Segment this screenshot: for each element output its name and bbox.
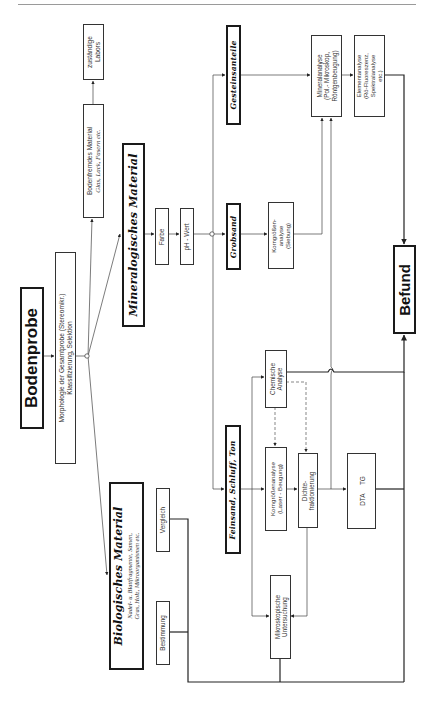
mineral-material-box: Mineralogisches Material: [122, 143, 145, 327]
labs-line-1: zuständige: [86, 36, 94, 68]
identification-box: Bestimmung: [156, 601, 170, 665]
responsible-labs-box: zuständige Labors: [83, 24, 104, 80]
labs-line-2: Labors: [94, 36, 102, 68]
element-analysis-line-1: Elementanalyse: [356, 53, 363, 99]
sieve-analysis-box: Korngrößen- analyse (Siebung): [268, 202, 294, 269]
fine-fraction-label: Feinsand, Schluff, Ton: [229, 440, 238, 539]
coarse-sand-label: Grobsand: [229, 215, 238, 258]
element-analysis-line-2: (Rö-Fluoreszenz,: [363, 53, 370, 99]
soil-sample-box: Bodenprobe: [20, 287, 44, 429]
comparison-label: Vergleich: [159, 507, 166, 533]
result-label: Befund: [396, 264, 413, 316]
thermo-line-2: DTA TG: [358, 469, 365, 513]
laser-line-1: Korngrößenanalyse: [269, 462, 276, 516]
biological-material-sub-1: Nadel- u. Blattfragmente, Samen,: [125, 507, 132, 646]
morphology-line-1: Morphologie der Gesamtprobe (Stereomikr.…: [58, 294, 66, 423]
foreign-material-box: Bodenfremdes Material Glas, Lack, Fasern…: [83, 104, 104, 218]
coarse-sand-box: Grobsand: [226, 203, 241, 270]
biological-material-title: Biologisches Material: [113, 507, 126, 646]
sieve-line-3: (Siebung): [284, 219, 291, 253]
thermal-analysis-box: Thermoanalyse DTA TG Glühverl.: [347, 453, 376, 529]
mineral-analysis-line-2: (Pol.- Mikroskop,: [323, 50, 330, 101]
laser-line-2: (Laser - Beugung): [276, 462, 283, 516]
foreign-material-subtitle: Glas, Lack, Fasern etc.: [93, 127, 101, 195]
density-fractionation-box: Dichte- fraktionierung: [298, 453, 318, 528]
fine-fraction-box: Feinsand, Schluff, Ton: [225, 425, 241, 554]
laser-grain-analysis-box: Korngrößenanalyse (Laser - Beugung): [265, 447, 287, 531]
element-analysis-box: Elementanalyse (Rö-Fluoreszenz, Spektral…: [354, 35, 385, 117]
microscopy-line-1: Mikroskopische: [273, 595, 280, 639]
element-analysis-line-3: Spektralanalyse: [370, 53, 377, 99]
rock-fraction-label: Gesteinsanteile: [229, 41, 238, 110]
ph-value-label: pH - Wert: [183, 223, 190, 250]
ph-value-box: pH - Wert: [180, 208, 194, 265]
soil-sample-label: Bodenprobe: [22, 308, 42, 408]
sieve-line-1: Korngrößen-: [271, 219, 278, 253]
mineral-analysis-line-3: Röntgenbeugung): [330, 50, 337, 101]
foreign-material-title: Bodenfremdes Material: [86, 127, 94, 195]
color-label: Farbe: [158, 228, 165, 245]
mineral-analysis-line-1: Mineralanalyse: [315, 50, 322, 101]
color-box: Farbe: [155, 208, 169, 265]
chemical-line-2: Analyse: [276, 363, 283, 395]
density-line-2: fraktionierung: [308, 471, 315, 510]
page-top-rule: [18, 4, 416, 5]
biological-material-box: Biologisches Material Nadel- u. Blattfra…: [109, 482, 144, 670]
sieve-line-2: analyse: [278, 219, 285, 253]
morphology-line-2: Klassifizierung, Selektion: [66, 294, 74, 423]
mineral-material-title: Mineralogisches Material: [127, 153, 140, 316]
comparison-box: Vergleich: [156, 488, 170, 552]
mineral-analysis-box: Mineralanalyse (Pol.- Mikroskop, Röntgen…: [311, 35, 342, 117]
chemical-line-1: Chemische: [269, 363, 276, 395]
biological-material-sub-2: Gras, Holz, Mikroorganismen etc.: [133, 507, 140, 646]
microscopic-examination-box: Mikroskopische Untersuchung: [270, 575, 291, 659]
density-line-1: Dichte-: [301, 471, 308, 510]
identification-label: Bestimmung: [159, 615, 166, 651]
chemical-analysis-box: Chemische Analyse: [265, 350, 287, 408]
element-analysis-line-4: etc.): [376, 53, 383, 99]
morphology-box: Morphologie der Gesamtprobe (Stereomikr.…: [55, 252, 76, 464]
microscopy-line-2: Untersuchung: [281, 595, 288, 639]
rock-fraction-box: Gesteinsanteile: [226, 25, 241, 125]
result-box: Befund: [393, 245, 416, 334]
